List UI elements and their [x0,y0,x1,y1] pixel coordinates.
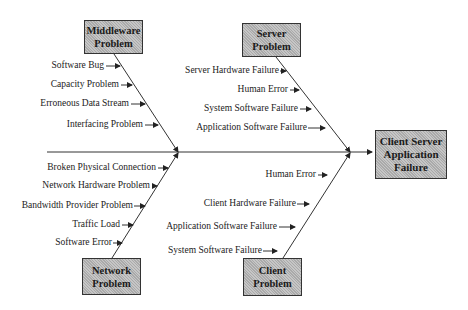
cause-label: Application Software Failure [166,221,277,231]
effect-line2: Application [380,148,443,161]
network-title-line1: Network [92,264,131,277]
client-title-line2: Problem [253,277,291,290]
effect-line3: Failure [380,161,443,174]
cause-label: Interfacing Problem [67,119,143,129]
cause-label: Client Hardware Failure [204,198,296,208]
cause-label: Software Bug [51,60,104,70]
cause-label: Human Error [238,84,288,94]
cause-label: Human Error [266,169,316,179]
network-problem-box: NetworkProblem [82,258,141,295]
cause-label: System Software Failure [204,103,298,113]
cause-label: Server Hardware Failure [185,65,279,75]
cause-label: Erroneous Data Stream [40,98,129,108]
cause-label: Capacity Problem [51,79,119,89]
network-title-line2: Problem [92,277,131,290]
cause-label: Application Software Failure [196,122,307,132]
cause-label: Bandwidth Provider Problem [22,200,133,210]
server-problem-box: ServerProblem [242,23,301,57]
server-title-line1: Server [252,27,290,40]
effect-box: Client ServerApplicationFailure [375,130,447,179]
client-problem-box: ClientProblem [243,258,302,296]
cause-label: Traffic Load [72,219,120,229]
cause-label: Network Hardware Problem [42,180,150,190]
server-title-line2: Problem [252,40,290,53]
cause-label: Broken Physical Connection [47,162,156,172]
cause-label: Software Error [55,237,112,247]
middleware-problem-box: MiddlewareProblem [84,20,143,54]
cause-label: System Software Failure [168,245,262,255]
middleware-title-line1: Middleware [86,24,140,37]
effect-line1: Client Server [380,135,443,148]
middleware-title-line2: Problem [86,37,140,50]
client-title-line1: Client [253,264,291,277]
